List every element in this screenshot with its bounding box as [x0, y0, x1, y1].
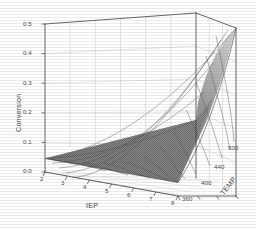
z-axis-title: Conversion: [15, 94, 22, 132]
x-tick-3: 3: [61, 180, 65, 186]
y-tick-360: 360: [182, 196, 193, 202]
x-tick-6: 6: [127, 192, 131, 198]
x-tick-8: 8: [171, 200, 175, 206]
y-tick-400: 400: [201, 180, 212, 186]
y-tick-440: 440: [214, 164, 225, 170]
x-tick-2: 2: [40, 176, 44, 182]
y-tick-500: 500: [228, 145, 239, 151]
x-tick-7: 7: [149, 196, 153, 202]
x-axis-title: IEP: [86, 202, 98, 209]
x-tick-5: 5: [105, 188, 109, 194]
z-tick-2: 0.2: [23, 109, 32, 115]
z-tick-4: 0.4: [23, 50, 32, 56]
surface-plot-figure: 0.0 0.1 0.2 0.3 0.4 0.5 Conversion 2 3 4…: [0, 0, 256, 229]
z-tick-5: 0.5: [23, 21, 32, 27]
z-tick-3: 0.3: [23, 80, 32, 86]
z-tick-1: 0.1: [23, 139, 32, 145]
z-tick-0: 0.0: [23, 168, 32, 174]
x-tick-4: 4: [83, 184, 87, 190]
